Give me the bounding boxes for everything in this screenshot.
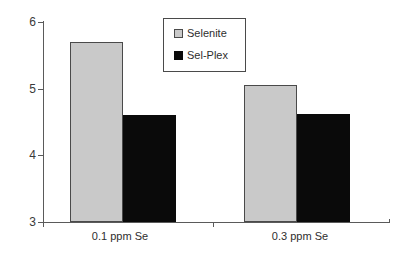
legend-label-selplex: Sel-Plex bbox=[187, 50, 228, 61]
legend-item-selplex: Sel-Plex bbox=[174, 50, 228, 61]
legend-label-selenite: Selenite bbox=[187, 28, 227, 39]
x-axis-label-group-1: 0.3 ppm Se bbox=[240, 231, 360, 242]
x-axis-line bbox=[43, 222, 390, 223]
y-axis-label-6: 6 bbox=[6, 16, 36, 28]
legend-swatch-selenite-icon bbox=[174, 29, 183, 38]
bar-selenite-group-1 bbox=[244, 85, 297, 222]
y-axis-label-5: 5 bbox=[6, 83, 36, 95]
y-axis-label-3: 3 bbox=[6, 216, 36, 228]
legend-swatch-selplex-icon bbox=[174, 51, 183, 60]
chart-legend: Selenite Sel-Plex bbox=[163, 18, 246, 72]
y-axis-label-4: 4 bbox=[6, 149, 36, 161]
bar-chart: 6543 0.1 ppm Se 0.3 ppm Se Selenite Sel-… bbox=[0, 0, 415, 260]
x-axis-tick-start bbox=[43, 222, 44, 227]
x-axis-label-group-0: 0.1 ppm Se bbox=[60, 231, 180, 242]
bar-selenite-group-0 bbox=[70, 42, 123, 222]
bar-sel-plex-group-0 bbox=[123, 115, 176, 222]
bar-sel-plex-group-1 bbox=[297, 114, 350, 222]
legend-item-selenite: Selenite bbox=[174, 28, 227, 39]
x-axis-tick-middle bbox=[213, 222, 214, 227]
